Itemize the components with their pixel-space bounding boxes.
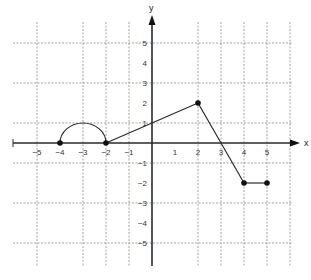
x-tick-label: 3 <box>219 148 224 157</box>
data-point <box>103 140 109 146</box>
function-graph: x y −5−4−3−2−11234554321−1−2−3−4−5 <box>0 0 311 280</box>
x-tick-label: 4 <box>242 148 247 157</box>
semicircle-segment <box>60 123 106 143</box>
x-axis-arrow-icon <box>290 140 300 147</box>
x-tick-label: −3 <box>78 148 88 157</box>
y-tick-label: −4 <box>138 219 148 228</box>
x-tick-label: 5 <box>265 148 270 157</box>
x-axis-label: x <box>304 138 309 148</box>
x-tick-label: 2 <box>196 148 201 157</box>
y-axis-label: y <box>149 3 154 13</box>
x-tick-label: −4 <box>55 148 65 157</box>
axes: x y <box>13 3 309 266</box>
y-tick-label: −5 <box>138 239 148 248</box>
y-axis-arrow-icon <box>149 15 156 25</box>
data-point <box>264 180 270 186</box>
data-point <box>195 100 201 106</box>
x-tick-label: −2 <box>101 148 111 157</box>
y-tick-label: 3 <box>143 79 148 88</box>
data-point <box>241 180 247 186</box>
y-tick-label: −2 <box>138 179 148 188</box>
y-tick-label: −3 <box>138 199 148 208</box>
y-tick-label: 5 <box>143 39 148 48</box>
data-point <box>57 140 63 146</box>
x-tick-label: −1 <box>124 148 134 157</box>
y-tick-label: −1 <box>138 159 148 168</box>
y-tick-label: 4 <box>143 59 148 68</box>
x-tick-label: −5 <box>32 148 42 157</box>
x-tick-label: 1 <box>173 148 178 157</box>
y-tick-label: 2 <box>143 99 148 108</box>
